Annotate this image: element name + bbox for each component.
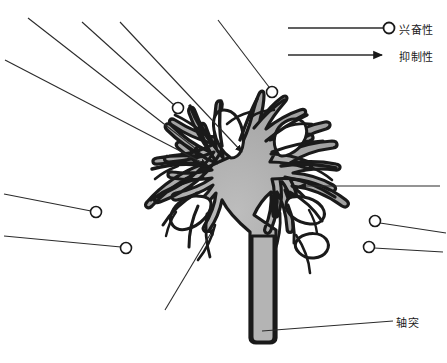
excitatory-terminal-left-upper: [91, 207, 102, 218]
neuron-cell: [146, 91, 349, 343]
excitatory-leader-right-upper: [380, 223, 446, 233]
excitatory-leader-right-lower: [374, 248, 443, 252]
excitatory-leader-top-left: [82, 22, 174, 105]
axon-shaft: [252, 236, 274, 342]
axon-label: 轴突: [396, 314, 419, 330]
neuron-diagram-canvas: [0, 0, 447, 363]
excitatory-leader-left-upper: [4, 194, 91, 211]
excitatory-terminal-left-lower: [121, 243, 132, 254]
axon-leader-line: [262, 321, 393, 331]
neuron-diagram-figure: 兴奋性 抑制性 轴突: [0, 0, 447, 363]
gap-lower-right: [295, 234, 328, 258]
excitatory-leader-top-right: [218, 20, 269, 87]
open-circle-terminal: [384, 23, 395, 34]
legend-item-excitatory: [288, 23, 395, 34]
excitatory-terminal-right-lower: [364, 242, 375, 253]
legend-label-inhibitory: 抑制性: [399, 48, 434, 64]
legend-group: [288, 23, 395, 56]
legend-label-excitatory: 兴奋性: [399, 21, 434, 37]
excitatory-leader-left-lower: [4, 236, 121, 247]
excitatory-terminal-right-upper: [370, 216, 381, 227]
excitatory-terminal-top-right: [267, 87, 278, 98]
excitatory-terminal-top-left: [173, 103, 184, 114]
